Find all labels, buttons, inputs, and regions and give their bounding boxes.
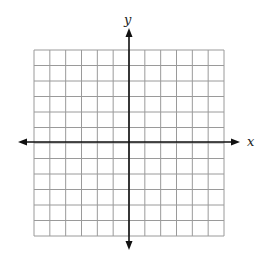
y-axis xyxy=(126,28,133,250)
x-axis-left-arrow-icon xyxy=(18,139,27,146)
y-axis-label: y xyxy=(123,12,132,27)
y-axis-up-arrow-icon xyxy=(126,28,133,37)
x-axis-label: x xyxy=(247,134,255,149)
x-axis-right-arrow-icon xyxy=(231,139,240,146)
coordinate-plane: x y xyxy=(0,0,266,258)
y-axis-down-arrow-icon xyxy=(126,241,133,250)
